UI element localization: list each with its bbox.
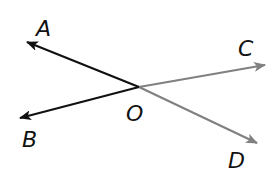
label-b: B bbox=[22, 127, 37, 152]
ray-ob bbox=[20, 87, 139, 118]
label-o: O bbox=[126, 101, 143, 126]
label-d: D bbox=[228, 148, 245, 173]
ray-oa bbox=[27, 42, 139, 87]
diagram-canvas: A B C D O bbox=[0, 0, 274, 180]
ray-od bbox=[139, 87, 257, 143]
ray-oc bbox=[139, 65, 265, 87]
label-c: C bbox=[238, 36, 254, 61]
rays-diagram: A B C D O bbox=[0, 0, 274, 180]
label-a: A bbox=[34, 16, 51, 41]
